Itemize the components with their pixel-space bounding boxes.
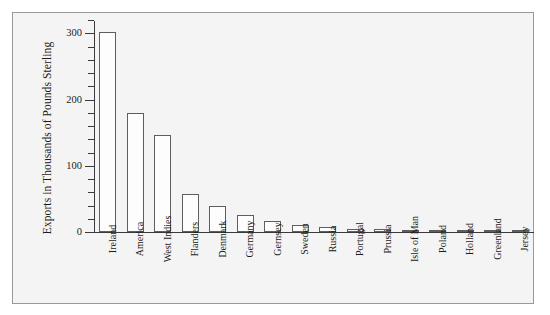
y-tick-label: 300 [66,28,82,39]
x-tick-label-text: America [135,222,145,256]
bar [99,32,116,232]
y-tick-minor [88,47,94,48]
x-tick-label-text: Isle of Man [410,216,420,262]
y-tick-major: 200 [85,100,94,101]
bar [127,113,144,232]
y-tick-minor [88,179,94,180]
chart-figure: Exports in Thousands of Pounds Sterling … [12,12,534,304]
y-tick-minor [88,126,94,127]
y-tick-minor [88,153,94,154]
x-tick-label-text: Sweden [300,223,310,255]
x-tick-label-text: Ireland [108,225,118,253]
y-tick-label: 200 [66,94,82,105]
y-tick-label: 0 [77,227,82,238]
y-tick-minor [88,73,94,74]
x-tick-label-text: Jersey [520,227,530,252]
x-tick-label-text: Gernsey [273,222,283,255]
x-tick-label-text: Russia [328,226,338,253]
y-tick-minor [88,192,94,193]
plot-area: 0100200300 [94,21,534,233]
x-tick-label-text: Flanders [190,222,200,256]
x-axis-labels: IrelandAmericaWest IndiesFlandersDenmark… [94,235,534,305]
y-tick-minor [88,60,94,61]
y-tick-minor [88,219,94,220]
x-tick-label-text: Denmark [218,220,228,257]
y-tick-minor [88,139,94,140]
y-axis-title: Exports in Thousands of Pounds Sterling [37,25,57,251]
y-tick-minor [88,206,94,207]
x-tick-label-text: Prussia [383,225,393,254]
x-tick-label-text: Greenland [493,218,503,260]
x-tick-label-text: West Indies [163,216,173,263]
y-tick-major: 300 [85,33,94,34]
y-tick-major: 100 [85,166,94,167]
x-tick-label-text: Germany [245,220,255,257]
x-tick-label-text: Poland [438,225,448,253]
y-tick-minor [88,86,94,87]
x-tick-label-text: Holland [465,223,475,255]
y-axis-line [94,21,95,233]
y-tick-label: 100 [66,161,82,172]
y-tick-minor [88,113,94,114]
y-tick-minor [88,20,94,21]
y-tick-major: 0 [85,232,94,233]
x-tick-label-text: Portugal [355,222,365,256]
